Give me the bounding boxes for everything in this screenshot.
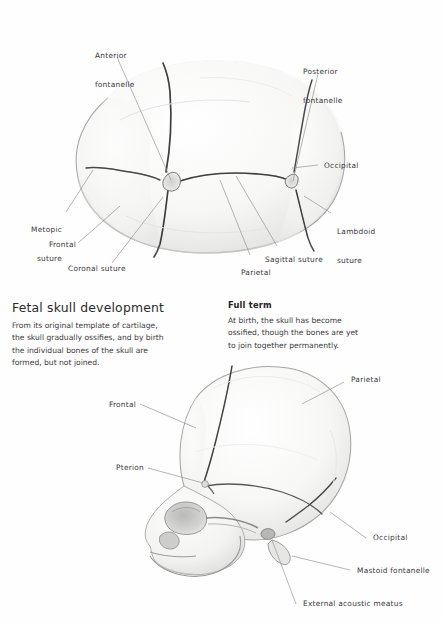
- label-occipital-lateral: Occipital: [373, 533, 407, 543]
- label-line: fontanelle: [303, 96, 343, 106]
- external-acoustic-meatus-opening: [261, 529, 275, 540]
- label-anterior-fontanelle: Anterior fontanelle: [95, 32, 135, 109]
- left-heading: Fetal skull development: [12, 300, 164, 315]
- label-sagittal-suture: Sagittal suture: [265, 255, 323, 265]
- label-posterior-fontanelle: Posterior fontanelle: [303, 48, 343, 125]
- right-heading: Full term: [228, 300, 272, 310]
- body-line: From its original template of cartilage,: [12, 320, 227, 332]
- label-coronal-suture: Coronal suture: [68, 264, 126, 274]
- label-metopic-suture: Metopic suture: [0, 206, 62, 283]
- full-term-skull-lateral-view: [145, 366, 351, 576]
- label-lambdoid-suture: Lambdoid suture: [337, 208, 376, 285]
- label-parietal-lateral: Parietal: [351, 375, 381, 385]
- label-frontal-lateral: Frontal: [0, 400, 136, 410]
- label-line: Lambdoid: [337, 227, 376, 237]
- leader-mastoid-fontanelle: [292, 556, 350, 570]
- pterion-marker: [202, 481, 209, 488]
- label-pterion: Pterion: [0, 463, 144, 473]
- label-line: Posterior: [303, 67, 343, 77]
- body-line: to join together permanently.: [228, 340, 433, 352]
- label-mastoid-fontanelle: Mastoid fontanelle: [357, 566, 430, 576]
- body-line: formed, but not joined.: [12, 357, 227, 369]
- label-line: Metopic: [0, 225, 62, 235]
- body-line: the individual bones of the skull are: [12, 345, 227, 357]
- leader-occipital-lateral: [330, 512, 366, 538]
- mastoid-region: [268, 540, 290, 565]
- illustration-page: Anterior fontanelle Posterior fontanelle…: [0, 0, 443, 623]
- orbit-socket: [165, 502, 207, 534]
- label-line: suture: [0, 254, 62, 264]
- body-line: the skull gradually ossifies, and by bir…: [12, 332, 227, 344]
- label-parietal: Parietal: [241, 268, 271, 278]
- label-line: suture: [337, 256, 376, 266]
- label-line: fontanelle: [95, 80, 135, 90]
- right-body: At birth, the skull has become ossified,…: [228, 315, 433, 352]
- label-line: Anterior: [95, 51, 135, 61]
- label-external-acoustic-meatus: External acoustic meatus: [303, 599, 403, 609]
- left-body: From its original template of cartilage,…: [12, 320, 227, 370]
- body-line: ossified, though the bones are yet: [228, 327, 433, 339]
- label-occipital: Occipital: [324, 161, 358, 171]
- body-line: At birth, the skull has become: [228, 315, 433, 327]
